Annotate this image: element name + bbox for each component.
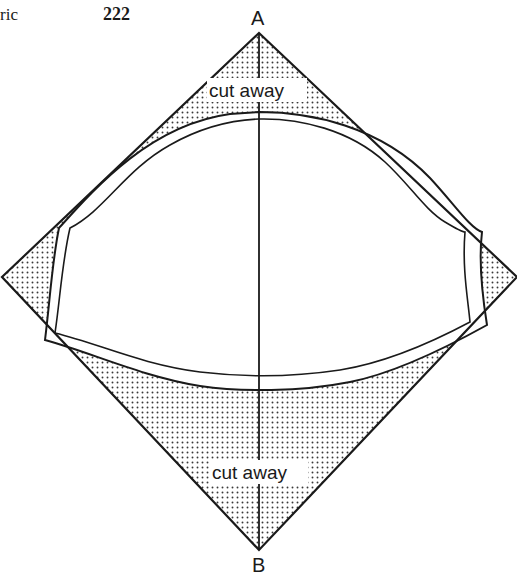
point-a-label: A xyxy=(251,7,265,29)
top-cut-away-label: cut away xyxy=(207,78,307,102)
bottom-cut-away-text: cut away xyxy=(212,462,287,483)
pattern-piece xyxy=(45,112,487,390)
point-b-label: B xyxy=(252,554,265,576)
top-cut-away-text: cut away xyxy=(209,80,284,101)
bottom-cut-away-label: cut away xyxy=(210,460,308,484)
pattern-diagram: cut away cut away A B xyxy=(0,0,517,576)
